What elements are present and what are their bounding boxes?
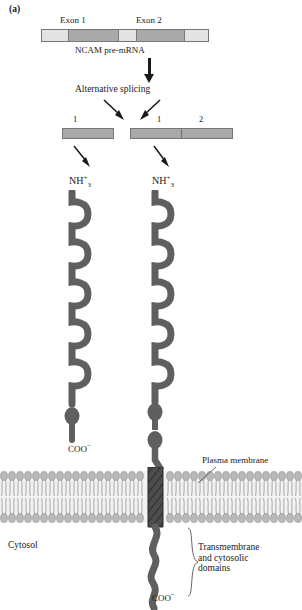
protein-chain-left xyxy=(58,190,104,456)
nh3-text: NH xyxy=(69,175,83,186)
mrna-left-segment-1-label: 1 xyxy=(73,115,77,125)
mrna-right-exon2-segment xyxy=(181,129,232,138)
ncam-splicing-figure: (a) Exon 1 Exon 2 NCAM pre-mRNA Alternat… xyxy=(0,0,302,610)
domain-label-line-3: domains xyxy=(198,563,259,574)
translation-arrow-left-icon xyxy=(72,145,94,175)
n-terminus-label-left: NH+3 xyxy=(69,175,91,190)
nh3-subscript: 3 xyxy=(87,181,91,189)
protein-chain-right xyxy=(141,190,187,484)
panel-label: (a) xyxy=(9,4,20,15)
exon-1-label: Exon 1 xyxy=(60,15,86,25)
mrna-left-bar xyxy=(62,128,114,139)
mrna-right-bar xyxy=(130,128,233,139)
coo-text: COO xyxy=(68,444,87,454)
mrna-right-segment-1-label: 1 xyxy=(157,115,161,125)
plasma-membrane xyxy=(0,467,302,523)
plasma-membrane-label: Plasma membrane xyxy=(202,455,268,465)
premrna-intron-segment xyxy=(42,30,68,41)
plasma-membrane-leader-line xyxy=(196,466,218,488)
premrna-caption: NCAM pre-mRNA xyxy=(75,45,145,55)
coo-charge: − xyxy=(171,591,175,599)
translation-arrow-right-icon xyxy=(150,145,172,175)
premrna-exon1-segment xyxy=(68,30,118,41)
transmembrane-domain-label: Transmembrane and cytosolic domains xyxy=(198,542,259,574)
alternative-splicing-label: Alternative splicing xyxy=(75,84,150,95)
coo-text: COO xyxy=(152,593,171,603)
down-arrow-head xyxy=(144,74,154,83)
n-terminus-label-right: NH+3 xyxy=(152,175,174,190)
mrna-right-exon1-segment xyxy=(131,129,181,138)
mrna-left-exon-segment xyxy=(63,129,113,138)
premrna-exon2-segment xyxy=(136,30,184,41)
splice-arrow-left-icon xyxy=(103,99,129,123)
domain-label-line-1: Transmembrane xyxy=(198,542,259,553)
c-terminus-label-right: COO− xyxy=(152,592,175,603)
domain-label-line-2: and cytosolic xyxy=(198,553,259,564)
nh3-text: NH xyxy=(152,175,166,186)
exon-2-label: Exon 2 xyxy=(136,15,162,25)
fibronectin-domain-bead xyxy=(148,403,163,421)
premrna-bar xyxy=(41,29,209,42)
nh3-subscript: 3 xyxy=(170,181,174,189)
cytosol-label: Cytosol xyxy=(8,540,38,551)
c-terminus-label-left: COO− xyxy=(68,443,91,454)
premrna-intron-segment xyxy=(184,30,208,41)
coo-charge: − xyxy=(87,442,91,450)
transmembrane-helix xyxy=(148,467,163,527)
mrna-right-segment-2-label: 2 xyxy=(199,115,203,125)
premrna-intron-segment xyxy=(118,30,137,41)
